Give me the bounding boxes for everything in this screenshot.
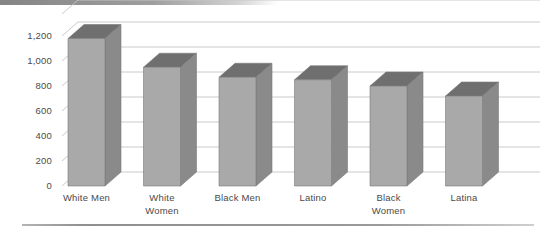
bar-column [219, 63, 272, 186]
bar-front-face [446, 96, 483, 186]
x-category-label: White Men [44, 192, 130, 205]
y-tick-label: 400 [6, 130, 52, 141]
x-category-label: Black Women [346, 192, 432, 217]
y-tick-label: 1,200 [6, 30, 52, 41]
bar-side-face [105, 25, 121, 187]
bar-side-face [256, 63, 272, 186]
bar-side-face [181, 53, 197, 186]
bar-column [370, 72, 423, 186]
footer-divider [22, 224, 534, 226]
bar-front-face [219, 77, 256, 186]
y-tick-label: 1,000 [6, 55, 52, 66]
bar-front-face [295, 80, 332, 186]
bars-group [68, 25, 499, 187]
bar-front-face [68, 39, 105, 187]
bar-chart-plot: 02004006008001,0001,200 White MenWhite W… [0, 0, 554, 235]
y-tick-label: 0 [6, 180, 52, 191]
chart-figure: 02004006008001,0001,200 White MenWhite W… [0, 0, 554, 235]
x-category-label: White Women [119, 192, 205, 217]
y-tick-label: 600 [6, 105, 52, 116]
bar-front-face [370, 86, 407, 186]
bar-column [295, 66, 348, 186]
bar-column [68, 25, 121, 187]
y-tick-label: 200 [6, 155, 52, 166]
y-tick-label: 800 [6, 80, 52, 91]
bar-front-face [144, 67, 181, 186]
bar-column [446, 82, 499, 186]
x-category-label: Latino [270, 192, 356, 205]
x-category-label: Latina [421, 192, 507, 205]
bar-column [144, 53, 197, 186]
gridline [62, 0, 78, 14]
bar-side-face [332, 66, 348, 186]
bar-side-face [407, 72, 423, 186]
bar-side-face [483, 82, 499, 186]
x-category-label: Black Men [195, 192, 281, 205]
